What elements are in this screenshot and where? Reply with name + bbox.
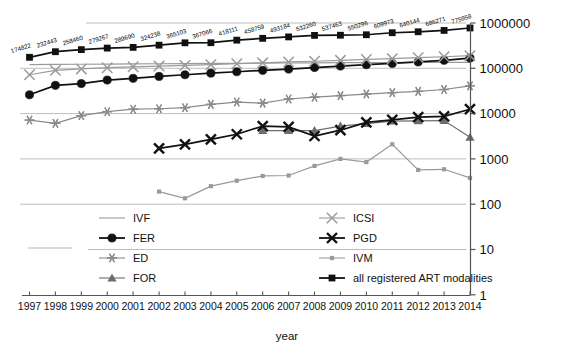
- x-axis-tick-label: 2002: [147, 300, 171, 312]
- series-ivm: [157, 142, 472, 200]
- chart-legend: IVFFEREDFORICSIPGDIVMall registered ART …: [99, 212, 493, 284]
- y-axis-tick-label: 1000: [480, 152, 509, 167]
- x-axis-tick-label: 1998: [44, 300, 68, 312]
- legend-item-ivf[interactable]: IVF: [99, 212, 150, 224]
- point-value-label: 686271: [424, 14, 446, 27]
- point-value-label: 609973: [373, 17, 395, 30]
- point-value-label: 550296: [347, 19, 369, 32]
- x-axis-tick-label: 2011: [381, 300, 404, 312]
- legend-marker-square-icon: [329, 275, 336, 282]
- x-axis-tick-label: 2009: [329, 300, 353, 312]
- y-axis: 1101001000100001000001000000: [471, 16, 531, 303]
- point-value-label: 289690: [114, 31, 136, 44]
- point-value-label: 174822: [10, 41, 32, 54]
- point-value-label: 279267: [88, 32, 110, 45]
- legend-label: FOR: [133, 272, 156, 284]
- y-axis-tick-label: 10: [480, 242, 494, 257]
- x-axis-tick-label: 2010: [355, 300, 379, 312]
- legend-item-pgd[interactable]: PGD: [319, 232, 377, 244]
- legend-item-all-registered-art-modalities[interactable]: all registered ART modalities: [319, 272, 493, 284]
- x-axis-tick-label: 2012: [407, 300, 431, 312]
- y-axis-tick-label: 1000000: [480, 16, 531, 31]
- x-axis-tick-label: 2001: [121, 300, 145, 312]
- legend-item-fer[interactable]: FER: [99, 232, 155, 244]
- series-icsi: [24, 50, 475, 79]
- legend-item-ivm[interactable]: IVM: [319, 252, 373, 264]
- point-value-label: 232443: [36, 36, 58, 49]
- legend-label: all registered ART modalities: [353, 272, 493, 284]
- legend-item-icsi[interactable]: ICSI: [319, 212, 374, 224]
- x-axis-tick-label: 2013: [432, 300, 456, 312]
- x-axis-tick-label: 2006: [251, 300, 275, 312]
- gridlines: [20, 23, 466, 250]
- x-axis-tick-label: 1997: [18, 300, 42, 312]
- line-chart: 1748222324432584602792672896903242383651…: [0, 0, 574, 347]
- x-axis-title: year: [276, 330, 299, 342]
- legend-marker-asterisk-icon: [107, 254, 117, 262]
- x-axis-tick-label: 2005: [225, 300, 249, 312]
- legend-item-for[interactable]: FOR: [99, 272, 156, 284]
- legend-marker-small-square-icon: [330, 256, 334, 260]
- point-value-label: 532260: [295, 19, 317, 32]
- x-axis-tick-label: 2000: [96, 300, 120, 312]
- point-value-label: 365103: [165, 27, 187, 40]
- x-axis-tick-label: 2007: [277, 300, 301, 312]
- point-value-label: 418111: [218, 24, 239, 37]
- point-value-label: 258460: [62, 34, 84, 47]
- legend-label: ICSI: [353, 212, 374, 224]
- legend-marker-triangle-icon: [107, 273, 116, 281]
- legend-label: IVF: [133, 212, 150, 224]
- legend-item-ed[interactable]: ED: [99, 252, 148, 264]
- x-axis: 1997199819992000200120022003200420052006…: [18, 292, 482, 312]
- chart-container: 1748222324432584602792672896903242383651…: [0, 0, 574, 347]
- x-axis-tick-label: 2004: [199, 300, 223, 312]
- legend-marker-circle-icon: [108, 234, 116, 242]
- legend-label: ED: [133, 252, 148, 264]
- legend-label: IVM: [353, 252, 373, 264]
- point-value-label: 640144: [399, 16, 421, 29]
- x-axis-tick-label: 1999: [70, 300, 94, 312]
- point-value-label: 367066: [191, 27, 213, 40]
- x-axis-tick-label: 2014: [458, 300, 482, 312]
- y-axis-tick-label: 100: [480, 197, 502, 212]
- y-axis-tick-label: 100000: [480, 61, 523, 76]
- series-layer: [24, 25, 475, 201]
- x-axis-tick-label: 2003: [173, 300, 197, 312]
- legend-label: FER: [133, 232, 155, 244]
- legend-label: PGD: [353, 232, 377, 244]
- point-value-label: 537463: [321, 19, 343, 32]
- point-value-label: 324238: [139, 29, 161, 42]
- y-axis-tick-label: 10000: [480, 106, 516, 121]
- x-axis-tick-label: 2008: [303, 300, 327, 312]
- point-value-label: 458759: [243, 22, 265, 35]
